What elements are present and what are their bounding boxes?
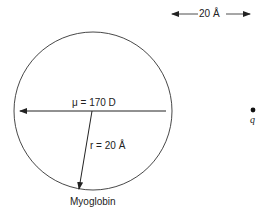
- point-charge: [251, 108, 256, 113]
- scale-bar-label: 20 Å: [199, 9, 220, 19]
- charge-label: q: [250, 115, 255, 125]
- dipole-label: μ = 170 D: [72, 98, 116, 108]
- myoglobin-label: Myoglobin: [70, 197, 116, 207]
- diagram-canvas: [0, 0, 266, 214]
- radius-label: r = 20 Å: [90, 141, 125, 151]
